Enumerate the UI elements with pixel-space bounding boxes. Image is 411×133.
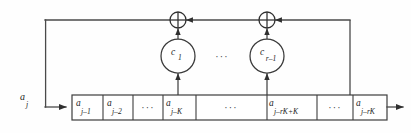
figure-canvas: c 1 c r–1 ··· a j–1 a bbox=[0, 0, 411, 133]
adder-1 bbox=[170, 12, 186, 28]
register-cell-subscript: j–K bbox=[170, 107, 183, 116]
register-cell-ellipsis: ··· bbox=[141, 102, 155, 113]
coefficient-nodes-ellipsis: ··· bbox=[215, 51, 229, 62]
input-signal-subscript: j bbox=[25, 100, 28, 109]
block-diagram-schematic: c 1 c r–1 ··· a j–1 a bbox=[0, 0, 411, 133]
coef-node-label-subscript: r–1 bbox=[266, 54, 277, 63]
register-cell-subscript: j–rK bbox=[360, 107, 376, 116]
register-cell-ellipsis: ··· bbox=[328, 102, 342, 113]
input-signal-base: a bbox=[20, 91, 25, 102]
coefficient-node-cr-1: c r–1 bbox=[250, 39, 284, 73]
input-signal-label: a j bbox=[20, 91, 28, 109]
register-cell-subscript: j–2 bbox=[111, 107, 122, 116]
register-cell-subscript: j–rK+K bbox=[273, 107, 299, 116]
adder-2 bbox=[259, 12, 275, 28]
coefficient-node-c1: c 1 bbox=[161, 39, 195, 73]
register-cell-subscript: j–1 bbox=[80, 107, 91, 116]
register-cell-ellipsis: ··· bbox=[224, 102, 238, 113]
shift-register: a j–1 a j–2 ··· a j–K ··· a j–rK+K bbox=[72, 95, 387, 120]
coef-node-label-subscript: 1 bbox=[178, 53, 182, 62]
feedback-loop-path bbox=[45, 20, 350, 107]
